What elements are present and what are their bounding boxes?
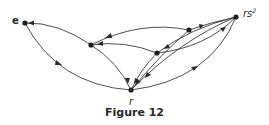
label-rs2: rs2 [243,9,256,19]
node-a [88,42,93,47]
arrow-icon [28,21,34,26]
figure-caption: Figure 12 [0,106,269,119]
label-rs2-base: rs [243,8,252,19]
node-rs2 [233,14,238,19]
label-rs2-exponent: 2 [252,7,256,14]
arrow-icon [105,33,112,38]
edge-a-to-e [25,23,91,45]
node-b [186,27,191,32]
node-r [128,87,133,92]
node-c [154,50,159,55]
edge-e-to-r [25,23,131,90]
edge-c-to-r [131,53,157,90]
node-e [22,20,27,25]
edge-a-to-r [91,45,131,90]
label-e: e [12,16,19,26]
arrow-icon [55,60,62,65]
edge-b-to-a [91,27,189,45]
